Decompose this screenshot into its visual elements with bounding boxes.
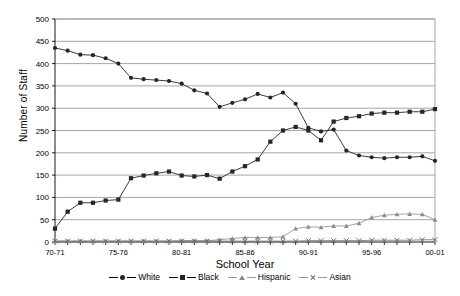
data-point-circle bbox=[395, 155, 399, 159]
data-point-circle bbox=[281, 90, 285, 94]
data-point-circle bbox=[420, 154, 424, 158]
data-point-square bbox=[332, 119, 336, 123]
legend-line-white-2 bbox=[127, 277, 136, 278]
data-point-square bbox=[205, 173, 209, 177]
data-point-square bbox=[91, 201, 95, 205]
legend-item-white[interactable]: White bbox=[109, 272, 160, 282]
x-axis-tick-label: 95-96 bbox=[362, 248, 381, 257]
series-line bbox=[55, 48, 435, 161]
data-point-circle bbox=[192, 88, 196, 92]
data-point-circle bbox=[230, 101, 234, 105]
y-axis-tick-label: 500 bbox=[36, 15, 50, 24]
data-point-circle bbox=[116, 62, 120, 66]
x-axis-tick-label: 90-91 bbox=[299, 248, 318, 257]
data-point-square bbox=[167, 169, 171, 173]
data-point-square bbox=[357, 114, 361, 118]
y-axis-tick-label: 400 bbox=[36, 60, 50, 69]
y-axis-tick-label: 200 bbox=[36, 149, 50, 158]
data-point-square bbox=[218, 177, 222, 181]
data-point-circle bbox=[78, 53, 82, 57]
legend-line-asian-2 bbox=[318, 277, 327, 278]
triangle-icon bbox=[239, 275, 245, 280]
legend-line-hispanic bbox=[228, 277, 237, 278]
data-point-circle bbox=[243, 97, 247, 101]
data-point-square bbox=[104, 198, 108, 202]
data-point-square bbox=[78, 201, 82, 205]
legend-item-hispanic[interactable]: Hispanic bbox=[228, 272, 291, 282]
y-axis-tick-label: 150 bbox=[36, 171, 50, 180]
data-point-square bbox=[230, 169, 234, 173]
series-hispanic bbox=[53, 212, 438, 244]
y-axis-tick-label: 0 bbox=[45, 238, 50, 247]
data-point-square bbox=[268, 140, 272, 144]
data-point-circle bbox=[344, 148, 348, 152]
legend-line-asian bbox=[299, 277, 308, 278]
legend-label-hispanic: Hispanic bbox=[258, 272, 291, 282]
chart-container: Number of Staff School Year 050100150200… bbox=[0, 0, 460, 296]
legend-label-asian: Asian bbox=[329, 272, 350, 282]
data-point-square bbox=[256, 157, 260, 161]
data-point-circle bbox=[268, 95, 272, 99]
data-point-square bbox=[53, 227, 57, 231]
data-point-circle bbox=[256, 92, 260, 96]
y-axis-tick-label: 350 bbox=[36, 82, 50, 91]
data-point-circle bbox=[129, 76, 133, 80]
legend-label-white: White bbox=[138, 272, 160, 282]
y-axis-tick-label: 100 bbox=[36, 193, 50, 202]
data-point-circle bbox=[319, 129, 323, 133]
legend-line-black bbox=[169, 277, 178, 278]
data-point-circle bbox=[91, 53, 95, 57]
legend-item-asian[interactable]: Asian bbox=[299, 272, 350, 282]
x-axis-tick-label: 75-76 bbox=[109, 248, 128, 257]
data-point-circle bbox=[167, 79, 171, 83]
data-point-circle bbox=[205, 91, 209, 95]
x-axis-tick-label: 80-81 bbox=[172, 248, 191, 257]
circle-icon bbox=[120, 275, 125, 280]
chart-legend: White Black Hispanic Asian bbox=[0, 272, 460, 282]
data-point-square bbox=[382, 111, 386, 115]
data-point-square bbox=[370, 111, 374, 115]
data-point-square bbox=[154, 171, 158, 175]
data-point-square bbox=[180, 173, 184, 177]
data-point-circle bbox=[66, 49, 70, 53]
legend-item-black[interactable]: Black bbox=[169, 272, 219, 282]
data-point-circle bbox=[154, 78, 158, 82]
data-point-square bbox=[281, 128, 285, 132]
y-axis-tick-label: 50 bbox=[40, 216, 49, 225]
data-point-square bbox=[142, 173, 146, 177]
data-point-triangle bbox=[357, 221, 362, 225]
data-point-circle bbox=[142, 77, 146, 81]
data-point-square bbox=[129, 176, 133, 180]
data-point-square bbox=[420, 110, 424, 114]
square-icon bbox=[180, 275, 185, 280]
data-point-circle bbox=[180, 82, 184, 86]
legend-line-hispanic-2 bbox=[247, 277, 256, 278]
data-point-square bbox=[344, 116, 348, 120]
x-axis-tick-label: 85-86 bbox=[235, 248, 254, 257]
data-point-circle bbox=[294, 102, 298, 106]
data-point-square bbox=[116, 198, 120, 202]
y-axis-tick-label: 450 bbox=[36, 37, 50, 46]
y-axis-tick-label: 250 bbox=[36, 127, 50, 136]
data-point-square bbox=[243, 164, 247, 168]
data-point-circle bbox=[332, 128, 336, 132]
legend-line-white bbox=[109, 277, 118, 278]
data-point-square bbox=[66, 210, 70, 214]
data-point-circle bbox=[433, 159, 437, 163]
data-point-circle bbox=[218, 105, 222, 109]
x-axis-tick-label: 70-71 bbox=[45, 248, 64, 257]
data-point-circle bbox=[408, 155, 412, 159]
data-point-square bbox=[408, 110, 412, 114]
y-axis-tick-label: 300 bbox=[36, 104, 50, 113]
data-point-circle bbox=[357, 153, 361, 157]
series-line bbox=[55, 109, 435, 229]
data-point-square bbox=[294, 125, 298, 129]
data-point-square bbox=[306, 128, 310, 132]
data-point-circle bbox=[53, 46, 57, 50]
x-mark-icon bbox=[310, 274, 316, 280]
legend-label-black: Black bbox=[198, 272, 219, 282]
data-point-square bbox=[192, 174, 196, 178]
data-point-square bbox=[395, 111, 399, 115]
data-point-circle bbox=[382, 156, 386, 160]
data-point-circle bbox=[370, 155, 374, 159]
